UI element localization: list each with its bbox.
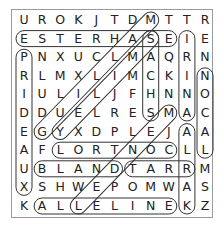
- grid-cell[interactable]: R: [178, 48, 196, 66]
- grid-cell[interactable]: E: [196, 30, 214, 48]
- grid-cell[interactable]: K: [178, 197, 196, 215]
- grid-cell[interactable]: T: [178, 11, 196, 29]
- grid-cell[interactable]: W: [160, 178, 178, 196]
- grid-cell[interactable]: O: [124, 178, 142, 196]
- grid-cell[interactable]: S: [33, 30, 51, 48]
- grid-cell[interactable]: N: [142, 197, 160, 215]
- grid-cell[interactable]: T: [106, 141, 124, 159]
- grid-cell[interactable]: I: [15, 85, 33, 103]
- grid-cell[interactable]: A: [178, 178, 196, 196]
- grid-cell[interactable]: E: [69, 104, 87, 122]
- grid-cell[interactable]: M: [142, 178, 160, 196]
- grid-cell[interactable]: M: [196, 160, 214, 178]
- grid-cell[interactable]: X: [69, 123, 87, 141]
- grid-cell[interactable]: I: [178, 67, 196, 85]
- grid-cell[interactable]: L: [106, 197, 124, 215]
- grid-cell[interactable]: T: [106, 11, 124, 29]
- grid-cell[interactable]: T: [51, 30, 69, 48]
- grid-cell[interactable]: G: [33, 123, 51, 141]
- grid-cell[interactable]: A: [124, 30, 142, 48]
- grid-cell[interactable]: A: [33, 197, 51, 215]
- grid-cell[interactable]: I: [69, 85, 87, 103]
- grid-cell[interactable]: A: [196, 123, 214, 141]
- grid-cell[interactable]: R: [106, 104, 124, 122]
- grid-cell[interactable]: D: [33, 104, 51, 122]
- grid-cell[interactable]: E: [87, 178, 105, 196]
- grid-cell[interactable]: E: [142, 123, 160, 141]
- grid-cell[interactable]: E: [69, 30, 87, 48]
- grid-cell[interactable]: N: [196, 48, 214, 66]
- grid-cell[interactable]: F: [124, 85, 142, 103]
- grid-cell[interactable]: N: [87, 160, 105, 178]
- grid-cell[interactable]: D: [124, 11, 142, 29]
- grid-cell[interactable]: L: [51, 141, 69, 159]
- grid-cell[interactable]: M: [142, 11, 160, 29]
- grid-cell[interactable]: K: [15, 197, 33, 215]
- grid-cell[interactable]: F: [33, 141, 51, 159]
- grid-cell[interactable]: L: [87, 104, 105, 122]
- grid-cell[interactable]: L: [51, 197, 69, 215]
- grid-cell[interactable]: N: [33, 48, 51, 66]
- grid-cell[interactable]: Z: [196, 197, 214, 215]
- grid-cell[interactable]: M: [51, 67, 69, 85]
- grid-cell[interactable]: E: [124, 104, 142, 122]
- grid-cell[interactable]: U: [33, 85, 51, 103]
- grid-cell[interactable]: R: [160, 160, 178, 178]
- grid-cell[interactable]: J: [106, 85, 124, 103]
- grid-cell[interactable]: N: [196, 67, 214, 85]
- grid-cell[interactable]: P: [106, 178, 124, 196]
- grid-cell[interactable]: J: [87, 11, 105, 29]
- grid-cell[interactable]: N: [124, 141, 142, 159]
- grid-cell[interactable]: P: [15, 48, 33, 66]
- grid-cell[interactable]: L: [196, 141, 214, 159]
- grid-cell[interactable]: H: [106, 30, 124, 48]
- grid-cell[interactable]: A: [178, 104, 196, 122]
- grid-cell[interactable]: X: [51, 48, 69, 66]
- grid-cell[interactable]: J: [160, 123, 178, 141]
- grid-cell[interactable]: X: [15, 178, 33, 196]
- grid-cell[interactable]: N: [160, 85, 178, 103]
- grid-cell[interactable]: O: [51, 11, 69, 29]
- grid-cell[interactable]: N: [178, 85, 196, 103]
- grid-cell[interactable]: U: [15, 11, 33, 29]
- grid-cell[interactable]: R: [87, 141, 105, 159]
- grid-cell[interactable]: S: [33, 178, 51, 196]
- grid-cell[interactable]: C: [87, 48, 105, 66]
- grid-cell[interactable]: E: [160, 197, 178, 215]
- grid-cell[interactable]: H: [51, 178, 69, 196]
- grid-cell[interactable]: C: [196, 104, 214, 122]
- grid-cell[interactable]: I: [124, 197, 142, 215]
- grid-cell[interactable]: L: [33, 67, 51, 85]
- grid-cell[interactable]: L: [87, 85, 105, 103]
- grid-cell[interactable]: D: [106, 160, 124, 178]
- grid-cell[interactable]: S: [142, 104, 160, 122]
- grid-cell[interactable]: S: [196, 178, 214, 196]
- grid-cell[interactable]: A: [178, 123, 196, 141]
- grid-cell[interactable]: L: [106, 48, 124, 66]
- grid-cell[interactable]: O: [196, 85, 214, 103]
- grid-cell[interactable]: O: [142, 141, 160, 159]
- grid-cell[interactable]: W: [69, 178, 87, 196]
- grid-cell[interactable]: Y: [51, 123, 69, 141]
- grid-cell[interactable]: S: [142, 30, 160, 48]
- grid-cell[interactable]: L: [69, 197, 87, 215]
- grid-cell[interactable]: L: [87, 67, 105, 85]
- grid-cell[interactable]: M: [124, 67, 142, 85]
- grid-cell[interactable]: Q: [160, 48, 178, 66]
- grid-cell[interactable]: R: [87, 30, 105, 48]
- grid-cell[interactable]: L: [51, 85, 69, 103]
- grid-cell[interactable]: U: [51, 104, 69, 122]
- grid-cell[interactable]: D: [15, 104, 33, 122]
- grid-cell[interactable]: L: [124, 123, 142, 141]
- grid-cell[interactable]: T: [160, 11, 178, 29]
- grid-cell[interactable]: P: [106, 123, 124, 141]
- grid-cell[interactable]: A: [142, 160, 160, 178]
- grid-cell[interactable]: D: [87, 123, 105, 141]
- grid-cell[interactable]: R: [15, 67, 33, 85]
- grid-cell[interactable]: A: [142, 48, 160, 66]
- grid-cell[interactable]: L: [51, 160, 69, 178]
- grid-cell[interactable]: E: [160, 30, 178, 48]
- grid-cell[interactable]: T: [124, 160, 142, 178]
- grid-cell[interactable]: M: [124, 48, 142, 66]
- grid-cell[interactable]: E: [15, 123, 33, 141]
